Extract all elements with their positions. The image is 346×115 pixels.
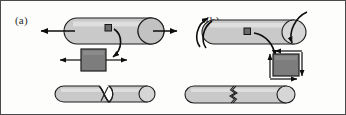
torsion-specimen	[202, 20, 306, 44]
tensile-specimen	[64, 18, 164, 44]
tension-stress-element	[81, 49, 106, 71]
fractured-torsion-specimen	[185, 86, 295, 103]
panel-b: (b)	[174, 1, 346, 115]
stress-element-marker	[244, 28, 251, 35]
panel-b-graphics	[174, 1, 346, 115]
panel-a: (a)	[1, 1, 174, 115]
figure-container: (a)	[0, 0, 346, 115]
stress-element-marker	[105, 25, 112, 32]
panel-a-graphics	[1, 1, 174, 115]
shear-stress-element	[273, 54, 299, 76]
fractured-tensile-specimen	[55, 86, 155, 102]
